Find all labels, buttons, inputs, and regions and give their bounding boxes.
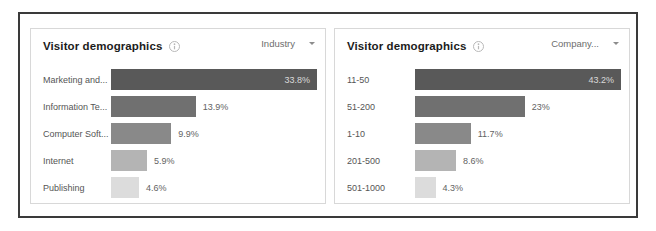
bar-category-label: 501-1000	[347, 183, 415, 193]
bar[interactable]	[111, 123, 171, 144]
bar-row: Publishing4.6%	[43, 177, 315, 198]
screenshot-root: Visitor demographics Industry Marketing …	[0, 0, 656, 231]
bar-track: 23%	[415, 96, 619, 117]
bar-value-label: 5.9%	[154, 156, 175, 166]
bar-value-label: 33.8%	[284, 75, 310, 85]
bar-row: 11-5043.2%	[347, 69, 619, 90]
bar-category-label: Marketing and...	[43, 75, 111, 85]
info-circle-icon[interactable]	[473, 41, 484, 52]
bar-category-label: Information Te...	[43, 102, 111, 112]
bar-track: 33.8%	[111, 69, 317, 90]
bar[interactable]	[415, 96, 525, 117]
bar-category-label: 201-500	[347, 156, 415, 166]
bar-track: 13.9%	[111, 96, 315, 117]
bar-category-label: 51-200	[347, 102, 415, 112]
bar-value-label: 43.2%	[588, 75, 614, 85]
bar-category-label: Internet	[43, 156, 111, 166]
panel-header: Visitor demographics Company...	[335, 29, 629, 63]
bar[interactable]	[111, 96, 196, 117]
company-size-dropdown-label: Company...	[551, 38, 599, 49]
bar-row: 1-1011.7%	[347, 123, 619, 144]
bar-value-label: 4.6%	[146, 183, 167, 193]
bar-category-label: Publishing	[43, 183, 111, 193]
page-title: Visitor demographics	[43, 40, 162, 52]
bar[interactable]: 43.2%	[415, 69, 621, 90]
bar-category-label: 1-10	[347, 129, 415, 139]
visitor-demographics-panel-company-size: Visitor demographics Company... 11-5043.…	[334, 28, 630, 204]
bar-row: Marketing and...33.8%	[43, 69, 315, 90]
visitor-demographics-panel-industry: Visitor demographics Industry Marketing …	[30, 28, 326, 204]
chevron-down-icon	[309, 42, 315, 45]
industry-dropdown-label: Industry	[261, 38, 295, 49]
bar[interactable]	[415, 177, 436, 198]
bar-value-label: 4.3%	[443, 183, 464, 193]
chevron-down-icon	[613, 42, 619, 45]
bar-row: 501-10004.3%	[347, 177, 619, 198]
bar-row: Information Te...13.9%	[43, 96, 315, 117]
bar-value-label: 9.9%	[178, 129, 199, 139]
bar-track: 4.3%	[415, 177, 619, 198]
bar[interactable]: 33.8%	[111, 69, 317, 90]
bar-track: 4.6%	[111, 177, 315, 198]
bar[interactable]	[415, 123, 471, 144]
panel-header: Visitor demographics Industry	[31, 29, 325, 63]
bar-track: 8.6%	[415, 150, 619, 171]
bar[interactable]	[111, 150, 147, 171]
bar-row: 201-5008.6%	[347, 150, 619, 171]
industry-bar-chart: Marketing and...33.8%Information Te...13…	[31, 63, 325, 198]
bar-value-label: 8.6%	[463, 156, 484, 166]
bar[interactable]	[415, 150, 456, 171]
bar[interactable]	[111, 177, 139, 198]
bar-category-label: Computer Soft...	[43, 129, 111, 139]
info-circle-icon[interactable]	[169, 41, 180, 52]
bar-value-label: 13.9%	[203, 102, 229, 112]
industry-dropdown[interactable]: Industry	[261, 38, 315, 49]
bar-value-label: 11.7%	[478, 129, 503, 139]
bar-track: 43.2%	[415, 69, 621, 90]
outer-frame: Visitor demographics Industry Marketing …	[18, 12, 638, 218]
page-title: Visitor demographics	[347, 40, 466, 52]
company-size-bar-chart: 11-5043.2%51-20023%1-1011.7%201-5008.6%5…	[335, 63, 629, 198]
bar-track: 9.9%	[111, 123, 315, 144]
bar-track: 5.9%	[111, 150, 315, 171]
company-size-dropdown[interactable]: Company...	[551, 38, 619, 49]
bar-row: Computer Soft...9.9%	[43, 123, 315, 144]
bar-row: 51-20023%	[347, 96, 619, 117]
bar-category-label: 11-50	[347, 75, 415, 85]
bar-row: Internet5.9%	[43, 150, 315, 171]
bar-track: 11.7%	[415, 123, 619, 144]
bar-value-label: 23%	[532, 102, 550, 112]
